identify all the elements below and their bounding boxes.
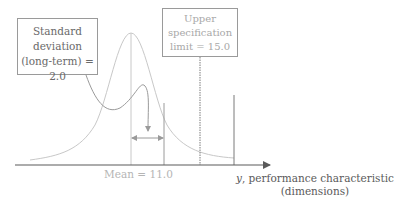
usl-line1: Upper bbox=[163, 12, 237, 26]
x-axis-label: y, performance characteristic (dimension… bbox=[236, 172, 394, 198]
std-dev-line1: Standard bbox=[18, 24, 97, 39]
usl-line3: limit = 15.0 bbox=[163, 40, 237, 54]
std-dev-line2: deviation bbox=[18, 39, 97, 54]
usl-callout-box: Upper specification limit = 15.0 bbox=[162, 8, 238, 57]
std-dev-line3: (long-term) = 2.0 bbox=[18, 54, 97, 84]
mean-label: Mean = 11.0 bbox=[104, 168, 173, 180]
x-axis-label-units: (dimensions) bbox=[236, 185, 394, 198]
std-dev-callout-box: Standard deviation (long-term) = 2.0 bbox=[17, 18, 98, 75]
x-axis-label-rest: , performance characteristic bbox=[242, 172, 394, 184]
usl-line2: specification bbox=[163, 26, 237, 40]
